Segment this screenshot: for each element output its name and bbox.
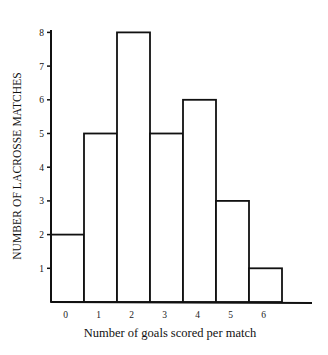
x-axis-line <box>51 302 312 303</box>
histogram-bar <box>51 235 84 302</box>
y-tick-label: 1 <box>39 264 44 274</box>
histogram-bar <box>249 268 282 302</box>
histogram-bar <box>84 134 117 303</box>
x-tick-label: 6 <box>261 310 266 320</box>
x-tick-label: 2 <box>129 310 134 320</box>
histogram-bar <box>183 100 216 302</box>
histogram-chart: 123456780123456 NUMBER OF LACROSSE MATCH… <box>0 0 328 355</box>
y-tick-label: 3 <box>39 196 44 206</box>
x-tick-label: 3 <box>162 310 167 320</box>
histogram-bar <box>150 134 183 303</box>
x-tick-label: 4 <box>195 310 200 320</box>
x-tick-label: 5 <box>228 310 233 320</box>
x-tick-label: 0 <box>63 310 68 320</box>
y-tick-label: 4 <box>39 163 44 173</box>
histogram-bar <box>117 32 150 302</box>
y-tick-label: 8 <box>39 28 44 38</box>
y-tick-label: 2 <box>39 230 44 240</box>
y-tick-label: 6 <box>39 95 44 105</box>
y-tick-label: 7 <box>39 62 44 72</box>
x-axis-label: Number of goals scored per match <box>40 326 300 341</box>
y-axis-label: NUMBER OF LACROSSE MATCHES <box>11 61 23 271</box>
y-tick-label: 5 <box>39 129 44 139</box>
histogram-bar <box>216 201 249 302</box>
x-tick-label: 1 <box>96 310 101 320</box>
plot-area: 123456780123456 <box>0 0 328 355</box>
